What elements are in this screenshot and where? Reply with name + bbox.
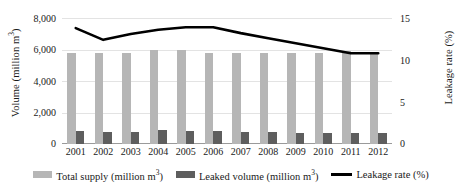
- y-axis-right-tick-0: 0: [400, 138, 428, 149]
- legend-label-leakage-rate: Leakage rate (%): [356, 169, 428, 180]
- x-axis-label-2001: 2001: [62, 146, 90, 157]
- x-axis-label-2002: 2002: [90, 146, 118, 157]
- legend-label-total-supply: Total supply (million m3): [56, 168, 163, 182]
- x-axis-labels: 2001200220032004200520062007200820092010…: [62, 146, 392, 162]
- y-axis-left-title-tail: ): [10, 28, 21, 32]
- x-axis-label-2005: 2005: [172, 146, 200, 157]
- y-axis-right-tick-10: 10: [400, 55, 428, 66]
- legend-swatch-leaked-volume-icon: [176, 171, 195, 178]
- legend-label-leaked-volume: Leaked volume (million m3): [199, 168, 319, 182]
- y-axis-left-tick-4000: 4,000: [10, 76, 56, 87]
- plot-area: [62, 18, 392, 144]
- legend-item-leakage-rate: Leakage rate (%): [331, 169, 428, 180]
- x-axis-label-2010: 2010: [310, 146, 338, 157]
- x-axis-label-2008: 2008: [255, 146, 283, 157]
- leakage-rate-polyline: [76, 27, 379, 53]
- legend-item-total-supply: Total supply (million m3): [33, 168, 163, 182]
- y-axis-left-title-superscript: 3: [7, 32, 16, 36]
- x-axis-label-2011: 2011: [337, 146, 365, 157]
- legend-item-leaked-volume: Leaked volume (million m3): [176, 168, 319, 182]
- legend-swatch-total-supply-icon: [33, 171, 52, 178]
- chart-legend: Total supply (million m3) Leaked volume …: [0, 168, 462, 182]
- x-axis-label-2009: 2009: [282, 146, 310, 157]
- chart-container: Volume (million m3) Leakage rate (%) 8,0…: [0, 0, 462, 192]
- y-axis-left-tick-2000: 2,000: [10, 107, 56, 118]
- y-axis-left-tick-0: 0: [10, 138, 56, 149]
- x-axis-label-2007: 2007: [227, 146, 255, 157]
- x-axis-label-2006: 2006: [200, 146, 228, 157]
- x-axis-label-2003: 2003: [117, 146, 145, 157]
- legend-swatch-leakage-rate-icon: [331, 173, 352, 176]
- x-axis-label-2004: 2004: [145, 146, 173, 157]
- y-axis-left-tick-8000: 8,000: [10, 13, 56, 24]
- y-axis-right-title: Leakage rate (%): [443, 10, 454, 126]
- y-axis-left-tick-6000: 6,000: [10, 44, 56, 55]
- leakage-rate-line-series: [62, 18, 392, 144]
- y-axis-right-tick-15: 15: [400, 13, 428, 24]
- y-axis-right-tick-5: 5: [400, 97, 428, 108]
- x-axis-label-2012: 2012: [365, 146, 393, 157]
